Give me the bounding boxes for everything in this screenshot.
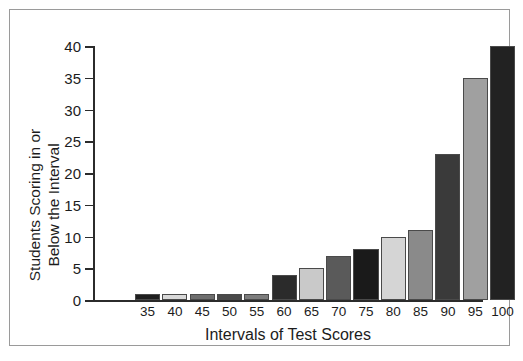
x-axis-line: [93, 300, 483, 302]
y-tick-mark: [85, 46, 93, 48]
y-tick-label: 15: [64, 197, 81, 212]
bar: [244, 294, 269, 300]
y-tick-mark: [85, 141, 93, 143]
chart-frame: 0510152025303540 35404550556065707580859…: [9, 9, 510, 346]
x-tick-label: 65: [304, 304, 319, 319]
y-tick-mark: [85, 78, 93, 80]
x-tick-label: 85: [413, 304, 428, 319]
bar: [217, 294, 242, 300]
y-tick-label: 20: [64, 166, 81, 181]
bar: [135, 294, 160, 300]
y-tick-label: 35: [64, 70, 81, 85]
y-axis-title-line1: Students Scoring in or: [26, 129, 43, 282]
bar: [162, 294, 187, 300]
y-axis-title-line2: Below the Interval: [45, 143, 62, 266]
bar: [463, 78, 488, 300]
x-tick-label: 70: [331, 304, 346, 319]
x-axis-title: Intervals of Test Scores: [93, 326, 483, 344]
bar: [353, 249, 378, 300]
y-tick-label: 10: [64, 229, 81, 244]
y-tick-label: 40: [64, 39, 81, 54]
bar: [299, 268, 324, 300]
bar: [272, 275, 297, 300]
x-tick-label: 35: [140, 304, 155, 319]
y-tick-mark: [85, 268, 93, 270]
x-tick-label: 100: [491, 304, 514, 319]
y-tick-mark: [85, 237, 93, 239]
x-tick-label: 95: [468, 304, 483, 319]
x-tick-label: 50: [222, 304, 237, 319]
x-tick-label: 60: [277, 304, 292, 319]
y-tick-label: 0: [73, 293, 81, 308]
y-tick-label: 30: [64, 102, 81, 117]
y-tick-label: 25: [64, 134, 81, 149]
y-tick-mark: [85, 173, 93, 175]
x-tick-label: 55: [249, 304, 264, 319]
y-axis-title: Students Scoring in or Below the Interva…: [26, 80, 64, 330]
x-tick-label: 90: [440, 304, 455, 319]
bar: [435, 154, 460, 300]
bar: [190, 294, 215, 300]
x-tick-label: 75: [358, 304, 373, 319]
x-tick-label: 80: [386, 304, 401, 319]
y-tick-mark: [85, 300, 93, 302]
x-tick-label: 45: [195, 304, 210, 319]
bar: [326, 256, 351, 300]
bar: [381, 237, 406, 301]
y-tick-mark: [85, 205, 93, 207]
bar-series: 35404550556065707580859095100: [93, 46, 483, 300]
x-tick-label: 40: [167, 304, 182, 319]
y-tick-mark: [85, 110, 93, 112]
y-tick-label: 5: [73, 261, 81, 276]
bar: [490, 46, 515, 300]
bar: [408, 230, 433, 300]
